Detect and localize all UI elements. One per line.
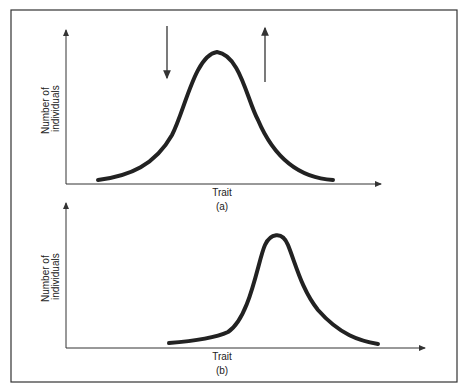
figure-canvas: Number of individuals Trait (a) Number o… xyxy=(0,0,467,391)
caption-b: (b) xyxy=(216,365,228,376)
distribution-curve-a xyxy=(98,52,333,180)
ylabel-b-line2: individuals xyxy=(50,253,61,300)
panel-b: Number of individuals Trait (b) xyxy=(40,203,425,376)
panel-a: Number of individuals Trait (a) xyxy=(40,26,381,212)
caption-a: (a) xyxy=(216,201,228,212)
distribution-curve-b xyxy=(169,235,378,344)
xlabel-b: Trait xyxy=(212,351,232,362)
xlabel-a: Trait xyxy=(212,187,232,198)
ylabel-a-line2: individuals xyxy=(50,85,61,132)
